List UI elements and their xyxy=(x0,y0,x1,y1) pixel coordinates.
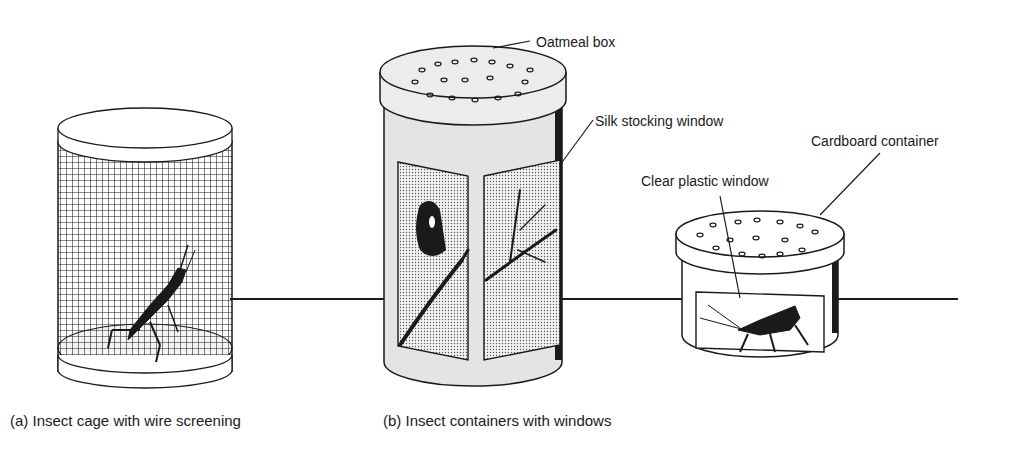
label-silk-stocking-window: Silk stocking window xyxy=(595,113,723,129)
caption-panel-b: (b) Insect containers with windows xyxy=(383,412,611,429)
diagram-canvas xyxy=(0,0,1010,451)
caption-panel-a: (a) Insect cage with wire screening xyxy=(10,412,241,429)
label-oatmeal-box: Oatmeal box xyxy=(536,34,615,50)
wire-cage-illustration xyxy=(58,108,232,388)
oatmeal-box-illustration xyxy=(380,46,566,386)
label-cardboard-container: Cardboard container xyxy=(811,133,939,149)
cardboard-container-illustration xyxy=(676,211,844,357)
label-clear-plastic-window: Clear plastic window xyxy=(641,173,769,189)
